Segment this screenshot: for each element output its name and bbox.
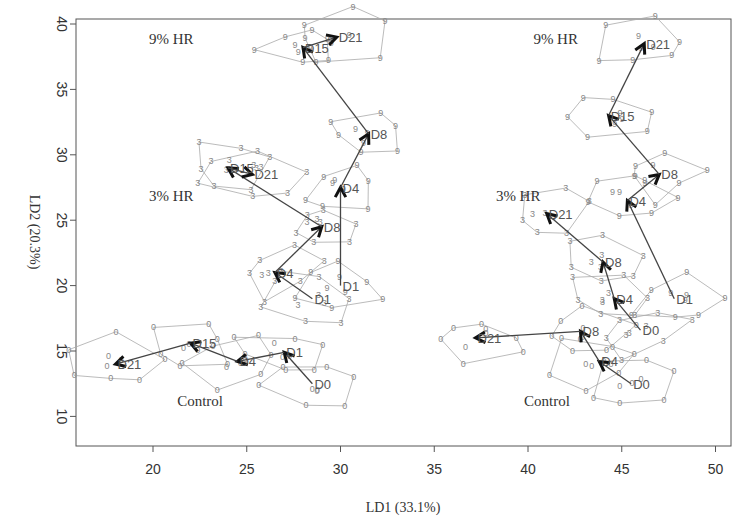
sample-point: 3 — [535, 227, 540, 237]
sample-point: 3 — [619, 355, 624, 365]
sample-point: 0 — [591, 393, 596, 403]
sample-point: 9 — [308, 267, 313, 277]
day-label: D21 — [254, 167, 278, 182]
sample-point: 0 — [514, 333, 519, 343]
sample-point: 0 — [461, 359, 466, 369]
sample-point: 9 — [649, 107, 654, 117]
lda-scatter-plot: 20253035404550 10152025303540 0000000000… — [0, 0, 751, 532]
sample-point: 0 — [206, 319, 211, 329]
y-axis-ticks: 10152025303540 — [54, 16, 76, 424]
sample-point: 9 — [303, 195, 308, 205]
sample-point: 9 — [617, 211, 622, 221]
sample-point: 3 — [322, 256, 327, 266]
sample-point: 3 — [599, 276, 604, 286]
sample-point: 0 — [644, 355, 649, 365]
sample-point: 0 — [351, 372, 356, 382]
sample-point: 9 — [653, 200, 658, 210]
sample-point: 3 — [600, 295, 605, 305]
sample-point: 0 — [292, 334, 297, 344]
sample-point: 3 — [195, 178, 200, 188]
sample-point: 9 — [565, 112, 570, 122]
sample-point: 9 — [393, 121, 398, 131]
sample-point: 0 — [72, 370, 77, 380]
x-axis-label: LD1 (33.1%) — [366, 500, 441, 516]
sample-point: 9 — [336, 130, 341, 140]
sample-point: 0 — [617, 398, 622, 408]
sample-point: 3 — [196, 137, 201, 147]
day-label: D1 — [343, 279, 360, 294]
sample-point: 3 — [339, 318, 344, 328]
sample-point: 3 — [627, 328, 632, 338]
sample-point: 0 — [256, 330, 261, 340]
sample-point: 9 — [378, 108, 383, 118]
trajectory-line — [341, 134, 369, 188]
sample-point: 0 — [137, 375, 142, 385]
sample-point: 0 — [463, 342, 468, 352]
y-tick-label: 35 — [54, 82, 70, 98]
day-label: D8 — [583, 324, 600, 339]
y-tick-label: 10 — [54, 409, 70, 425]
sample-point: 3 — [520, 215, 525, 225]
sample-point: 9 — [696, 310, 701, 320]
sample-point: 3 — [606, 288, 611, 298]
sample-point: 0 — [617, 381, 622, 391]
sample-point: 9 — [292, 40, 297, 50]
day-label: D0 — [643, 323, 660, 338]
sample-point: 3 — [690, 315, 695, 325]
sample-point: 9 — [676, 193, 681, 203]
day-label: D0 — [633, 377, 650, 392]
sample-point: 0 — [583, 386, 588, 396]
sample-point: 3 — [247, 268, 252, 278]
sample-point: 3 — [621, 270, 626, 280]
sample-point: 3 — [617, 315, 622, 325]
sample-point: 3 — [294, 228, 299, 238]
sample-point: 3 — [598, 309, 603, 319]
day-label: D8 — [605, 255, 622, 270]
sample-point: 9 — [332, 175, 337, 185]
day-label: D21 — [118, 357, 142, 372]
sample-point: 3 — [259, 270, 264, 280]
sample-point: 3 — [570, 272, 575, 282]
sample-point: 9 — [636, 31, 641, 41]
sample-point: 0 — [113, 327, 118, 337]
y-tick-label: 25 — [54, 212, 70, 228]
sample-point: 9 — [632, 171, 637, 181]
sample-point: 0 — [547, 370, 552, 380]
sample-point: 0 — [108, 373, 113, 383]
sample-point: 9 — [337, 272, 342, 282]
sample-point: 9 — [673, 312, 678, 322]
day-label: D8 — [324, 220, 341, 235]
sample-point: 3 — [298, 276, 303, 286]
sample-point: 9 — [662, 148, 667, 158]
sample-point: 0 — [106, 351, 111, 361]
day-label: D1 — [676, 292, 693, 307]
day-label: D21 — [339, 30, 363, 45]
y-tick-label: 20 — [54, 278, 70, 294]
group-label: 9% HR — [149, 31, 194, 47]
x-tick-label: 40 — [520, 461, 536, 477]
sample-point: 0 — [312, 365, 317, 375]
sample-point: 3 — [250, 191, 255, 201]
sample-point: 9 — [366, 176, 371, 186]
sample-point: 3 — [199, 164, 204, 174]
group-label: Control — [524, 393, 570, 409]
sample-point: 9 — [668, 288, 673, 298]
day-label: D4 — [343, 181, 360, 196]
sample-point: 9 — [596, 56, 601, 66]
day-label: D15 — [230, 161, 254, 176]
sample-point: 9 — [320, 201, 325, 211]
sample-point: 3 — [292, 240, 297, 250]
sample-point: 9 — [684, 267, 689, 277]
sample-point: 0 — [320, 340, 325, 350]
group-label: Control — [177, 393, 223, 409]
sample-point: 9 — [378, 53, 383, 63]
sample-point: 9 — [283, 32, 288, 42]
sample-point: 9 — [292, 293, 297, 303]
sample-point: 3 — [303, 316, 308, 326]
sample-point: 9 — [355, 160, 360, 170]
sample-point: 9 — [302, 20, 307, 30]
sample-point: 3 — [285, 188, 290, 198]
sample-point: 0 — [559, 333, 564, 343]
sample-point: 9 — [321, 172, 326, 182]
sample-point: 9 — [395, 146, 400, 156]
